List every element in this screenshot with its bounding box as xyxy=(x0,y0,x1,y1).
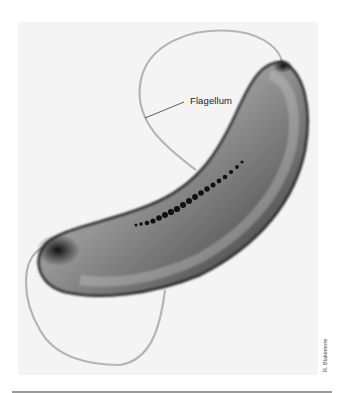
flagellum-label: Flagellum xyxy=(190,95,232,106)
micrograph-image xyxy=(0,0,344,393)
photo-credit: R. Blakemore xyxy=(322,339,328,372)
cell-pole xyxy=(36,234,80,266)
